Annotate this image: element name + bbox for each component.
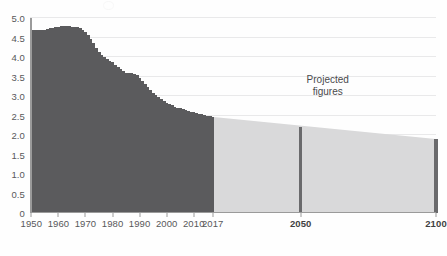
y-tick-label: 4.0	[11, 52, 25, 63]
x-tick-label: 2000	[156, 218, 178, 229]
x-tick-mark	[31, 213, 32, 217]
y-tick-label: 1.0	[11, 169, 25, 180]
bar-projected	[299, 127, 302, 213]
y-tick-label: 1.5	[11, 149, 25, 160]
x-tick-mark	[212, 213, 213, 217]
plot-area: 00.51.01.52.02.53.03.54.04.55.0 19501960…	[30, 18, 436, 213]
y-tick-label: 5.0	[11, 13, 25, 24]
decorative-mark	[103, 1, 114, 10]
x-tick-label: 1990	[129, 218, 151, 229]
x-tick-mark	[139, 213, 140, 217]
x-tick-label: 1980	[102, 218, 124, 229]
x-axis-line	[30, 212, 436, 214]
x-tick-mark	[436, 213, 437, 217]
y-tick-label: 0	[20, 208, 25, 219]
y-axis-line	[30, 18, 32, 213]
x-tick-mark	[112, 213, 113, 217]
x-tick-label: 1950	[21, 218, 43, 229]
x-tick-label: 2100	[425, 218, 447, 229]
annotation-line-2: figures	[307, 86, 349, 98]
x-tick-mark	[85, 213, 86, 217]
bar-projected	[434, 139, 437, 213]
x-tick-label: 1970	[75, 218, 97, 229]
x-tick-label: 2050	[290, 218, 312, 229]
y-tick-label: 3.5	[11, 71, 25, 82]
x-tick-mark	[193, 213, 194, 217]
y-tick-label: 2.0	[11, 130, 25, 141]
y-tick-label: 2.5	[11, 110, 25, 121]
y-tick-label: 3.0	[11, 91, 25, 102]
projected-figures-annotation: Projected figures	[307, 74, 349, 98]
x-tick-label: 2017	[202, 218, 224, 229]
x-tick-mark	[58, 213, 59, 217]
x-tick-mark	[166, 213, 167, 217]
x-tick-label: 1960	[48, 218, 70, 229]
y-tick-label: 0.5	[11, 188, 25, 199]
y-tick-label: 4.5	[11, 32, 25, 43]
bar-series	[30, 18, 436, 213]
x-tick-mark	[300, 213, 301, 217]
annotation-line-1: Projected	[307, 74, 349, 86]
bar	[211, 117, 214, 213]
